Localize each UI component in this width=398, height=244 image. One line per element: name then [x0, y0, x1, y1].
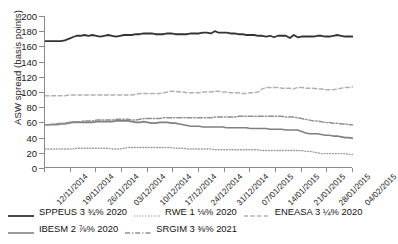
x-tick-mark	[44, 168, 45, 172]
x-tick-mark	[198, 168, 199, 172]
y-tick-80: 80	[0, 102, 37, 113]
legend-row-2: IBESM 2 ⅞% 2020SRGIM 3 ⅜% 2021	[8, 220, 361, 237]
x-tick-mark	[121, 168, 122, 172]
x-tick-mark	[95, 168, 96, 172]
plot-area	[44, 16, 352, 168]
series-line-1	[45, 147, 353, 154]
x-tick-mark	[275, 168, 276, 172]
y-tick-140: 140	[0, 56, 37, 67]
x-tick-mark	[326, 168, 327, 172]
x-tick-mark	[249, 168, 250, 172]
legend-swatch-icon-0	[8, 207, 34, 217]
y-tick-180: 180	[0, 26, 37, 37]
series-line-3	[45, 121, 353, 138]
legend-swatch-icon-3	[8, 224, 34, 234]
series-line-4	[45, 116, 353, 124]
legend-row-1: SPPEUS 3 ¾% 2020RWE 1 ⅛% 2020ENEASA 3 ¼%…	[8, 203, 361, 220]
x-tick-mark	[301, 168, 302, 172]
legend-swatch-icon-1	[134, 207, 160, 217]
legend-label-2: ENEASA 3 ¼% 2020	[275, 206, 363, 217]
series-line-2	[45, 87, 353, 96]
series-line-0	[45, 31, 353, 41]
legend-label-0: SPPEUS 3 ¾% 2020	[39, 206, 127, 217]
legend-item-3[interactable]: IBESM 2 ⅞% 2020	[8, 223, 118, 234]
x-tick-mark	[224, 168, 225, 172]
legend-item-4[interactable]: SRGIM 3 ⅜% 2021	[125, 223, 237, 234]
series-layer	[45, 16, 353, 168]
y-tick-100: 100	[0, 87, 37, 98]
y-tick-40: 40	[0, 132, 37, 143]
y-tick-200: 200	[0, 11, 37, 22]
legend-label-1: RWE 1 ⅛% 2020	[165, 206, 237, 217]
legend-swatch-icon-2	[244, 207, 270, 217]
y-tick-0: 0	[0, 163, 37, 174]
y-tick-60: 60	[0, 117, 37, 128]
legend-item-1[interactable]: RWE 1 ⅛% 2020	[134, 206, 237, 217]
legend-label-4: SRGIM 3 ⅜% 2021	[156, 223, 237, 234]
legend-item-2[interactable]: ENEASA 3 ¼% 2020	[244, 206, 363, 217]
y-tick-120: 120	[0, 71, 37, 82]
legend-label-3: IBESM 2 ⅞% 2020	[39, 223, 118, 234]
chart-legend: SPPEUS 3 ¾% 2020RWE 1 ⅛% 2020ENEASA 3 ¼%…	[8, 203, 361, 237]
x-tick-mark	[147, 168, 148, 172]
x-tick-mark	[172, 168, 173, 172]
x-tick-mark	[70, 168, 71, 172]
legend-item-0[interactable]: SPPEUS 3 ¾% 2020	[8, 206, 127, 217]
x-tick-mark	[352, 168, 353, 172]
y-tick-160: 160	[0, 41, 37, 52]
y-tick-20: 20	[0, 147, 37, 158]
legend-swatch-icon-4	[125, 224, 151, 234]
